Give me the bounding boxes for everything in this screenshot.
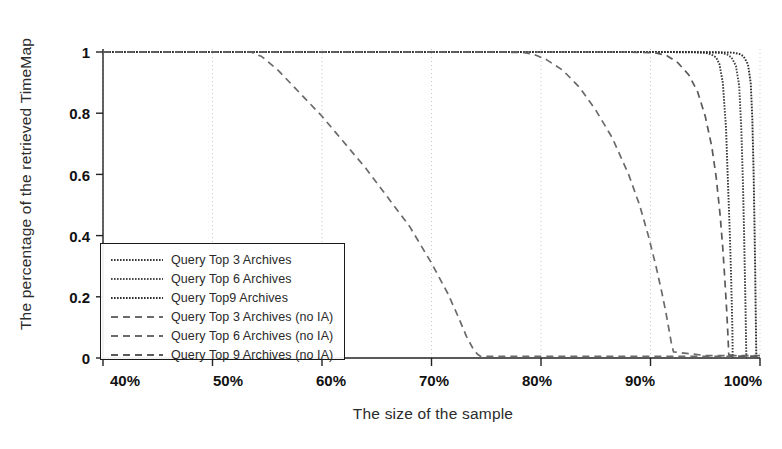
legend-item: Query Top 9 Archives (no IA) — [101, 345, 344, 365]
plot-area — [0, 0, 782, 449]
legend-item-label: Query Top9 Archives — [171, 291, 288, 305]
legend-swatch-dashed-icon — [109, 348, 165, 362]
chart-figure: The percentage of the retrieved TimeMap … — [0, 0, 782, 449]
legend-item: Query Top 6 Archives — [101, 269, 344, 289]
legend-swatch-dotted-icon — [109, 291, 165, 305]
legend-item: Query Top 3 Archives — [101, 250, 344, 270]
legend-item-label: Query Top 6 Archives — [171, 272, 292, 286]
legend-item-label: Query Top 3 Archives (no IA) — [171, 310, 333, 324]
chart-legend: Query Top 3 Archives Query Top 6 Archive… — [100, 243, 345, 360]
legend-item: Query Top 6 Archives (no IA) — [101, 326, 344, 346]
legend-item-label: Query Top 9 Archives (no IA) — [171, 348, 333, 362]
legend-item: Query Top 3 Archives (no IA) — [101, 307, 344, 327]
legend-swatch-dashed-icon — [109, 310, 165, 324]
legend-swatch-dashed-icon — [109, 329, 165, 343]
legend-item-label: Query Top 6 Archives (no IA) — [171, 329, 333, 343]
legend-swatch-dotted-icon — [109, 272, 165, 286]
legend-swatch-dotted-icon — [109, 253, 165, 267]
legend-item: Query Top9 Archives — [101, 288, 344, 308]
legend-item-label: Query Top 3 Archives — [171, 253, 292, 267]
